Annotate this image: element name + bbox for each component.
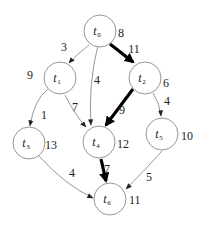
edge-t1-t4: 7 [65, 95, 86, 127]
node-weight-label: 6 [163, 76, 169, 90]
edge-weight-label: 11 [128, 42, 140, 56]
edge-t1-t3: 1 [30, 89, 48, 126]
task-graph-svg: 34111794475 t08t19t26t313t412t510t611 [0, 0, 206, 226]
edge-arrow [39, 156, 93, 198]
edge-weight-label: 3 [61, 40, 67, 54]
node-t2: t26 [129, 62, 169, 94]
node-t0: t08 [84, 15, 124, 47]
edge-weight-label: 9 [119, 103, 125, 117]
node-t6: t611 [94, 183, 141, 215]
edge-weight-label: 4 [94, 73, 100, 87]
task-graph-diagram: 34111794475 t08t19t26t313t412t510t611 [0, 0, 206, 226]
edge-arrow [153, 93, 161, 116]
node-weight-label: 10 [181, 129, 193, 143]
node-t4: t412 [83, 126, 129, 158]
edge-weight-label: 1 [41, 108, 47, 122]
edge-weight-label: 7 [72, 100, 78, 114]
node-weight-label: 11 [129, 193, 141, 207]
edge-arrow [126, 151, 162, 189]
edge-arrow [69, 45, 89, 63]
node-weight-label: 12 [117, 137, 129, 151]
edge-weight-label: 4 [69, 166, 75, 180]
node-weight-label: 9 [27, 68, 33, 82]
edge-t2-t4: 9 [106, 89, 133, 125]
nodes-layer: t08t19t26t313t412t510t611 [13, 15, 193, 215]
edge-t2-t5: 4 [153, 93, 170, 116]
node-weight-label: 8 [118, 26, 124, 40]
edge-t0-t4: 4 [90, 45, 100, 125]
edge-t4-t6: 7 [101, 159, 110, 181]
node-t1: t19 [27, 62, 76, 94]
node-t3: t313 [13, 127, 57, 159]
edge-weight-label: 5 [146, 170, 152, 184]
node-weight-label: 13 [45, 138, 57, 152]
edge-weight-label: 7 [104, 162, 110, 176]
edge-t3-t6: 4 [39, 156, 93, 198]
node-t5: t510 [146, 118, 193, 150]
edge-t0-t2: 11 [110, 42, 140, 62]
edge-t0-t1: 3 [61, 40, 89, 63]
edge-weight-label: 4 [164, 94, 170, 108]
edge-t5-t6: 5 [126, 151, 162, 189]
